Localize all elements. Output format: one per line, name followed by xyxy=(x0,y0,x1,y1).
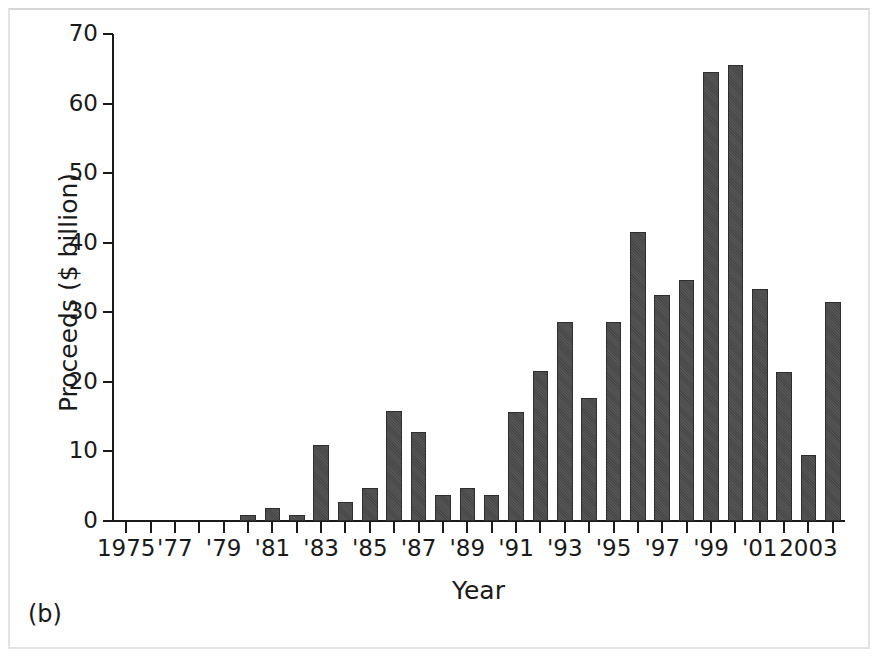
bar-chart-plot: 010203040506070 1975'77'79'81'83'85'87'8… xyxy=(0,0,878,657)
x-axis-tick xyxy=(686,522,688,533)
bar xyxy=(728,65,744,521)
bar xyxy=(338,502,354,521)
x-axis-tick xyxy=(491,522,493,533)
x-axis-tick xyxy=(710,522,712,533)
x-axis-tick-label: '01 xyxy=(742,537,778,560)
x-axis-tick xyxy=(198,522,200,533)
x-axis-tick xyxy=(393,522,395,533)
bar xyxy=(801,455,817,521)
x-axis-tick xyxy=(734,522,736,533)
x-axis-tick-label: '87 xyxy=(401,537,437,560)
x-axis-tick xyxy=(807,522,809,533)
x-axis-tick-label: '85 xyxy=(352,537,388,560)
y-axis-tick xyxy=(103,242,113,244)
y-axis-tick-label: 0 xyxy=(52,509,98,532)
y-axis-tick xyxy=(103,103,113,105)
bar xyxy=(752,289,768,521)
x-axis-tick xyxy=(515,522,517,533)
x-axis-tick-label: '89 xyxy=(450,537,486,560)
x-axis-tick xyxy=(466,522,468,533)
bar xyxy=(411,432,427,521)
bar xyxy=(265,508,281,521)
bar xyxy=(460,488,476,521)
bar xyxy=(703,72,719,521)
x-axis-tick-label: '79 xyxy=(206,537,242,560)
y-axis-line xyxy=(112,34,114,522)
x-axis-tick-label: '81 xyxy=(255,537,291,560)
x-axis-tick-label: '99 xyxy=(693,537,729,560)
y-axis-tick xyxy=(103,520,113,522)
bar xyxy=(776,372,792,521)
bar xyxy=(435,495,451,521)
x-axis-tick xyxy=(247,522,249,533)
bar xyxy=(313,445,329,521)
bar xyxy=(581,398,597,521)
x-axis-tick-label: '95 xyxy=(596,537,632,560)
bar xyxy=(606,322,622,521)
x-axis-tick xyxy=(832,522,834,533)
x-axis-tick-label: '77 xyxy=(157,537,193,560)
x-axis-tick-label: '91 xyxy=(498,537,534,560)
x-axis-tick xyxy=(369,522,371,533)
bar xyxy=(533,371,549,521)
x-axis-tick-label: '83 xyxy=(303,537,339,560)
y-axis-tick xyxy=(103,172,113,174)
x-axis-tick xyxy=(150,522,152,533)
x-axis-tick xyxy=(296,522,298,533)
x-axis-tick xyxy=(783,522,785,533)
bar xyxy=(386,411,402,521)
x-axis-tick xyxy=(418,522,420,533)
x-axis-tick-label: 1975 xyxy=(97,537,156,560)
bar xyxy=(654,295,670,521)
panel-label: (b) xyxy=(28,600,62,628)
bar xyxy=(289,515,305,521)
x-axis-tick xyxy=(588,522,590,533)
bar xyxy=(484,495,500,521)
x-axis-tick xyxy=(271,522,273,533)
y-axis-tick xyxy=(103,311,113,313)
bar xyxy=(825,302,841,521)
x-axis-tick-label: '93 xyxy=(547,537,583,560)
y-axis-tick xyxy=(103,381,113,383)
x-axis-tick xyxy=(223,522,225,533)
x-axis-tick xyxy=(125,522,127,533)
y-axis-tick-label: 70 xyxy=(52,22,98,45)
x-axis-tick xyxy=(320,522,322,533)
bar xyxy=(240,515,256,521)
y-axis-tick xyxy=(103,450,113,452)
x-axis-tick xyxy=(759,522,761,533)
x-axis-tick-label: 2003 xyxy=(779,537,838,560)
x-axis-title: Year xyxy=(112,576,845,605)
bar xyxy=(508,412,524,521)
x-axis-tick xyxy=(564,522,566,533)
x-axis-tick-label: '97 xyxy=(644,537,680,560)
x-axis-tick xyxy=(344,522,346,533)
bar xyxy=(630,232,646,521)
x-axis-tick xyxy=(539,522,541,533)
x-axis-tick xyxy=(613,522,615,533)
bar xyxy=(679,280,695,521)
y-axis-tick xyxy=(103,33,113,35)
bar xyxy=(362,488,378,521)
y-axis-title: Proceeds ($ billion) xyxy=(54,103,83,483)
x-axis-tick xyxy=(637,522,639,533)
figure-panel: 010203040506070 1975'77'79'81'83'85'87'8… xyxy=(0,0,878,657)
x-axis-tick xyxy=(442,522,444,533)
x-axis-tick xyxy=(174,522,176,533)
x-axis-tick xyxy=(661,522,663,533)
bar xyxy=(557,322,573,521)
